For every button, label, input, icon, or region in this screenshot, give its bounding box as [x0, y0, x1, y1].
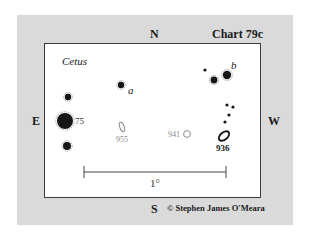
- star-lower-left-icon: [63, 142, 71, 150]
- star-chain-4-icon: [223, 120, 226, 123]
- star-chain-2-icon: [231, 105, 234, 108]
- star-b-label: b: [231, 59, 237, 71]
- ngc-955-galaxy-icon: [118, 122, 126, 133]
- east-label: E: [32, 114, 40, 129]
- scale-label: 1°: [150, 177, 160, 189]
- star-mid-ne-icon: [211, 77, 218, 84]
- star-chain-1-icon: [225, 103, 228, 106]
- star-75-label: 75: [75, 116, 84, 126]
- galaxy-936-label: 936: [216, 143, 230, 153]
- west-label: W: [268, 114, 280, 129]
- star-a-label: a: [128, 84, 134, 96]
- star-chain-3-icon: [227, 113, 230, 116]
- chart-title: Chart 79c: [212, 27, 263, 42]
- ngc-941-galaxy-icon: [184, 131, 191, 138]
- south-label: S: [151, 202, 158, 217]
- star-75-icon: [57, 113, 73, 129]
- star-b-icon: [223, 71, 231, 79]
- star-a-icon: [118, 82, 124, 88]
- copyright-text: © Stephen James O'Meara: [167, 203, 265, 213]
- constellation-label: Cetus: [62, 55, 87, 67]
- galaxy-955-label: 955: [116, 135, 128, 144]
- north-label: N: [150, 27, 159, 42]
- galaxy-941-label: 941: [168, 130, 180, 139]
- ngc-936-galaxy-icon: [217, 129, 231, 142]
- star-upper-left-icon: [65, 94, 71, 100]
- star-small-ne-icon: [203, 68, 206, 71]
